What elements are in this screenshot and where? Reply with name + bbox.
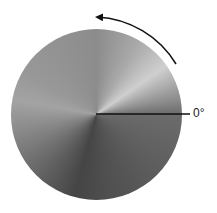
- diagram-overlay: [0, 0, 217, 213]
- rotation-arrow-icon: [97, 17, 176, 64]
- zero-degree-label: 0°: [193, 106, 204, 120]
